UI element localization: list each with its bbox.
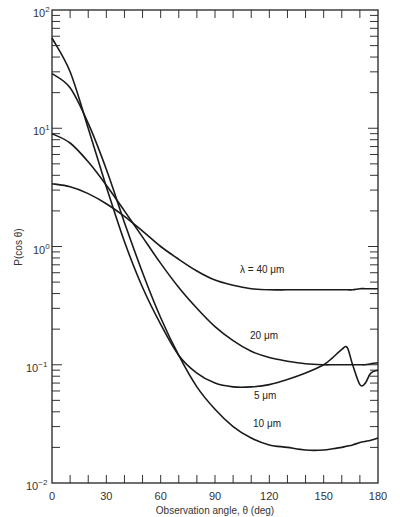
y-tick-label: 10−2 [26,478,48,492]
y-tick-label: 100 [33,242,50,256]
x-tick-label: 30 [100,490,112,502]
y-axis-title: P(cos θ) [13,228,24,265]
svg-text:10−1: 10−1 [26,360,48,374]
plot-frame [52,10,378,483]
x-tick-label: 90 [209,490,221,502]
phase-function-chart: 0 30 60 90 120 150 180 102 101 100 10−1 … [0,0,400,517]
curve-40um [52,184,378,290]
y-tick-label: 102 [33,5,50,19]
x-tick-label: 60 [155,490,167,502]
axis-ticks [52,10,378,483]
curve-label-5um: 5 μm [254,390,276,401]
y-tick-label: 101 [33,123,50,137]
svg-text:100: 100 [33,242,50,256]
curve-5um [52,38,378,387]
curve-label-40um: λ = 40 μm [240,264,284,275]
svg-text:102: 102 [33,5,50,19]
curve-label-20um: 20 μm [250,330,278,341]
x-tick-label: 180 [369,490,387,502]
curves [52,38,378,450]
x-tick-label: 150 [315,490,333,502]
svg-text:101: 101 [33,123,50,137]
x-tick-label: 0 [49,490,55,502]
x-tick-label: 120 [260,490,278,502]
svg-text:10−2: 10−2 [26,478,48,492]
y-tick-label: 10−1 [26,360,48,374]
curve-10um [52,74,378,451]
x-axis-title: Observation angle, θ (deg) [156,505,274,516]
curve-label-10um: 10 μm [253,418,281,429]
